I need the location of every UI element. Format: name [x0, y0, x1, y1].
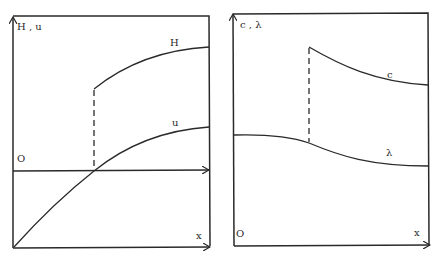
diagram-canvas: H , u O x H u c , λ O x c λ — [0, 0, 440, 264]
right-y-axis — [233, 14, 234, 246]
c-curve — [309, 47, 428, 85]
u-curve-label: u — [172, 117, 179, 128]
left-x-axis-bottom — [13, 247, 210, 248]
right-y-axis-label: c , λ — [240, 19, 262, 30]
c-curve-label: c — [387, 69, 393, 80]
right-origin-label: O — [236, 228, 244, 239]
right-x-axis-label: x — [414, 227, 420, 238]
h-curve — [94, 47, 209, 89]
left-x-axis-label: x — [196, 230, 202, 241]
left-origin-label: O — [17, 153, 25, 164]
h-curve-label: H — [170, 37, 179, 48]
left-panel: H , u O x H u — [13, 16, 210, 248]
u-curve — [14, 127, 209, 247]
left-y-axis-label: H , u — [17, 21, 42, 32]
right-panel: c , λ O x c λ — [233, 13, 430, 246]
right-panel-frame — [233, 13, 429, 245]
lambda-curve — [234, 135, 428, 166]
lambda-curve-label: λ — [386, 147, 393, 158]
left-x-axis-zero — [13, 170, 209, 171]
right-x-axis — [234, 245, 430, 246]
